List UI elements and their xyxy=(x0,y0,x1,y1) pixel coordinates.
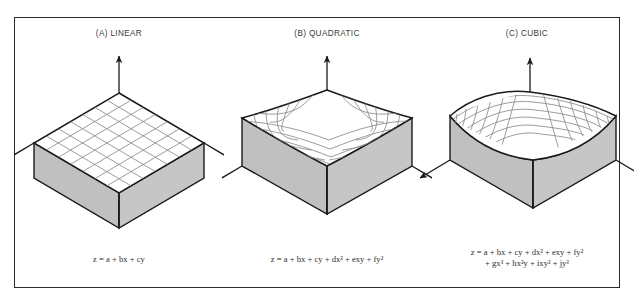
trend-surface-figure: (A) LINEAR xyxy=(0,0,635,305)
panel-cubic-title: (C) CUBIC xyxy=(420,29,634,38)
x-axis-arrow xyxy=(222,166,242,185)
quadratic-surface-diagram xyxy=(222,48,432,238)
panel-quadratic-equation: z = a + bx + cy + dx² + exy + fy² xyxy=(222,254,432,265)
panel-cubic: (C) CUBIC xyxy=(420,0,634,305)
panel-quadratic-title: (B) QUADRATIC xyxy=(222,29,432,38)
equation-line: z = a + bx + cy + dx² + exy + fy² xyxy=(222,254,432,265)
panel-linear-plot xyxy=(14,48,224,238)
panel-cubic-plot xyxy=(420,48,634,238)
panel-linear-title: (A) LINEAR xyxy=(14,29,224,38)
panel-quadratic: (B) QUADRATIC xyxy=(222,0,432,305)
equation-line: z = a + bx + cy xyxy=(14,254,224,265)
equation-line: z = a + bx + cy + dx² + exy + fy² xyxy=(420,247,634,258)
linear-surface-diagram xyxy=(14,48,224,238)
panel-cubic-equation: z = a + bx + cy + dx² + exy + fy² + gx³ … xyxy=(420,247,634,269)
y-axis-arrow xyxy=(204,143,224,162)
x-axis-arrow xyxy=(420,160,450,178)
equation-line: + gx³ + hx²y + ixy² + jy³ xyxy=(420,258,634,269)
cubic-surface-diagram xyxy=(420,48,634,238)
panel-quadratic-plot xyxy=(222,48,432,238)
panel-linear: (A) LINEAR xyxy=(14,0,224,305)
x-axis-arrow xyxy=(14,143,34,162)
y-axis-arrow xyxy=(616,160,634,178)
panel-linear-equation: z = a + bx + cy xyxy=(14,254,224,265)
